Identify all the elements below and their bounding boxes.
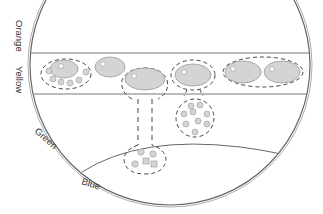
zone-label-orange: Orange [14,20,25,52]
cell-cluster-4 [171,60,215,137]
zone-label-blue: Blue [80,175,101,191]
blue-region-boundary [82,144,300,172]
outer-circle [28,0,312,207]
diagram-canvas: Orange Yellow Green Blue [0,0,323,214]
cell-cluster-3 [122,68,168,174]
cell-cluster-5 [223,57,303,87]
zone-label-yellow: Yellow [14,66,25,93]
cell-2 [95,57,125,77]
cell-cluster-1 [41,59,91,89]
